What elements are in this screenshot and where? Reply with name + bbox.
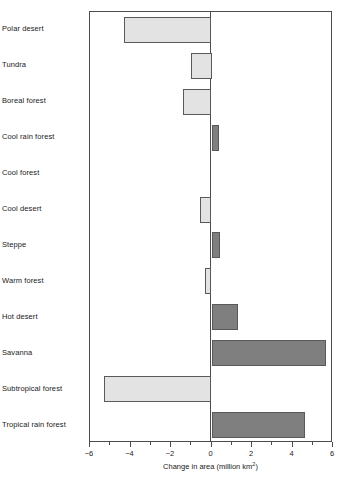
x-tick-major <box>130 442 131 447</box>
category-label: Steppe <box>2 240 81 249</box>
bar <box>205 268 211 294</box>
bar <box>183 89 211 115</box>
bar-row <box>90 268 331 294</box>
bar-row <box>90 197 331 223</box>
bar-row <box>90 232 331 258</box>
bar-row <box>90 89 331 115</box>
bar-row <box>90 125 331 151</box>
category-label: Hot desert <box>2 312 81 321</box>
category-label: Cool desert <box>2 204 81 213</box>
bar <box>212 125 219 151</box>
bar <box>212 412 305 438</box>
x-tick-label: 4 <box>289 449 293 459</box>
x-tick-label: −4 <box>125 449 134 459</box>
category-label: Subtropical forest <box>2 384 81 393</box>
x-axis-title-text: Change in area (million km <box>163 462 252 471</box>
x-axis-title: Change in area (million km2) <box>89 462 332 472</box>
x-tick-label: −6 <box>85 449 94 459</box>
x-axis-title-suffix: ) <box>255 462 258 471</box>
bar-row <box>90 376 331 402</box>
x-tick-major <box>170 442 171 447</box>
category-label: Tropical rain forest <box>2 420 81 429</box>
x-tick-minor <box>190 442 191 445</box>
x-tick-minor <box>150 442 151 445</box>
category-label: Cool rain forest <box>2 132 81 141</box>
plot-area <box>89 11 332 442</box>
bar-row <box>90 412 331 438</box>
bar-row <box>90 161 331 187</box>
x-tick-label: 0 <box>208 449 212 459</box>
bar-chart: Polar desertTundraBoreal forestCool rain… <box>0 0 341 498</box>
bar <box>212 232 220 258</box>
x-tick-label: −2 <box>166 449 175 459</box>
bar <box>200 197 211 223</box>
bar <box>212 304 238 330</box>
bar-row <box>90 340 331 366</box>
category-label: Warm forest <box>2 276 81 285</box>
x-tick-major <box>292 442 293 447</box>
bar-row <box>90 304 331 330</box>
x-tick-minor <box>312 442 313 445</box>
bar-row <box>90 17 331 43</box>
x-tick-label: 2 <box>249 449 253 459</box>
x-tick-minor <box>271 442 272 445</box>
x-tick-major <box>251 442 252 447</box>
category-label: Savanna <box>2 348 81 357</box>
x-tick-major <box>332 442 333 447</box>
bar-row <box>90 53 331 79</box>
x-tick-major <box>89 442 90 447</box>
x-tick-minor <box>231 442 232 445</box>
x-tick-major <box>211 442 212 447</box>
x-axis-tick-labels: −6−4−20246 <box>89 449 332 461</box>
category-label: Tundra <box>2 60 81 69</box>
category-label: Boreal forest <box>2 96 81 105</box>
category-axis-labels: Polar desertTundraBoreal forestCool rain… <box>0 11 85 442</box>
category-label: Cool forest <box>2 168 81 177</box>
bar <box>191 53 211 79</box>
category-label: Polar desert <box>2 24 81 33</box>
bar <box>212 340 326 366</box>
x-tick-minor <box>109 442 110 445</box>
bar <box>124 17 211 43</box>
x-tick-label: 6 <box>330 449 334 459</box>
bar <box>104 376 211 402</box>
